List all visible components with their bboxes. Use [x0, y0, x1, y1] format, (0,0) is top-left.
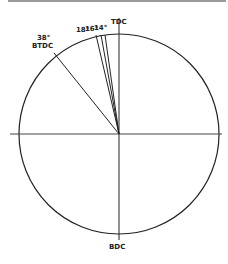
- tdc-label: TDC: [111, 18, 127, 26]
- btdc-text-label: BTDC: [32, 42, 53, 50]
- timing-circle-diagram: TDC BDC 38° BTDC 18° 16° 14°: [0, 0, 228, 264]
- line-16deg: [101, 35, 119, 134]
- deg-14-label: 14°: [94, 24, 107, 32]
- btdc-angle-label: 38°: [37, 34, 50, 42]
- bdc-label: BDC: [109, 243, 125, 251]
